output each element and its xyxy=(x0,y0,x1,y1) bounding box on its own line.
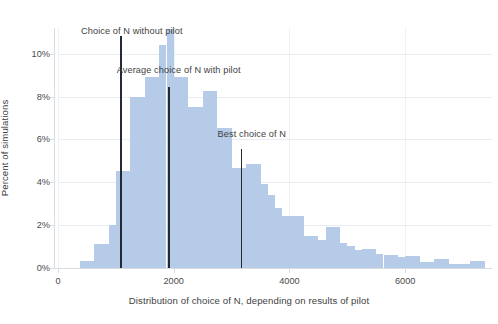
histogram-bar xyxy=(456,264,463,268)
histogram-bar xyxy=(174,77,181,268)
histogram-bar xyxy=(275,208,282,268)
x-tick-mark xyxy=(405,269,406,273)
gridline-vertical xyxy=(405,28,406,268)
histogram-bar xyxy=(87,261,94,269)
y-tick-label: 8% xyxy=(37,92,50,102)
histogram-bar xyxy=(398,257,405,268)
histogram-bar xyxy=(362,249,369,268)
histogram-bar xyxy=(412,256,419,268)
histogram-bar xyxy=(203,91,210,268)
histogram-bar xyxy=(326,227,333,268)
x-tick-label: 0 xyxy=(55,276,60,286)
histogram-bar xyxy=(253,164,260,268)
histogram-bar xyxy=(434,259,441,268)
histogram-bar xyxy=(463,264,470,268)
x-tick-label: 2000 xyxy=(163,276,183,286)
histogram-bar xyxy=(80,261,87,269)
marker-label-1: Choice of N without pilot xyxy=(81,26,183,36)
histogram-bar xyxy=(246,164,253,268)
histogram-bar xyxy=(123,171,130,269)
marker-line-3 xyxy=(241,149,243,268)
histogram-bar xyxy=(101,244,108,268)
histogram-bar xyxy=(478,261,485,269)
histogram-bar xyxy=(427,262,434,268)
histogram-bar xyxy=(152,77,159,268)
histogram-bar xyxy=(282,216,289,269)
histogram-bar xyxy=(340,243,347,268)
marker-label-2: Average choice of N with pilot xyxy=(117,65,241,75)
histogram-bar xyxy=(145,77,152,268)
y-tick-label: 6% xyxy=(37,134,50,144)
y-tick-label: 0% xyxy=(37,263,50,273)
histogram-bar xyxy=(138,97,145,268)
y-tick-label: 10% xyxy=(32,49,50,59)
histogram-bar xyxy=(217,128,224,268)
x-tick-mark xyxy=(174,269,175,273)
histogram-bar xyxy=(449,264,456,268)
histogram-bar xyxy=(94,244,101,268)
gridline-horizontal xyxy=(58,54,492,55)
x-axis-line xyxy=(54,268,492,269)
histogram-bar xyxy=(333,227,340,268)
marker-label-3: Best choice of N xyxy=(218,129,287,139)
y-axis-line xyxy=(54,28,55,269)
x-tick-mark xyxy=(289,269,290,273)
histogram-bar xyxy=(384,255,391,268)
histogram-bar xyxy=(355,250,362,268)
x-tick-mark xyxy=(58,269,59,273)
histogram-bar xyxy=(405,256,412,268)
histogram-bar xyxy=(195,107,202,268)
y-tick-label: 4% xyxy=(37,177,50,187)
histogram-bar xyxy=(224,128,231,268)
gridline-horizontal xyxy=(58,97,492,98)
x-tick-label: 6000 xyxy=(395,276,415,286)
histogram-bar xyxy=(297,216,304,269)
histogram-bar xyxy=(289,216,296,269)
histogram-bar xyxy=(391,255,398,268)
plot-area: Choice of N without pilotAverage choice … xyxy=(58,28,492,268)
histogram-chart: Percent of simulations 0%2%4%6%8%10% Cho… xyxy=(0,0,498,324)
y-tick-label: 2% xyxy=(37,220,50,230)
x-tick-label: 4000 xyxy=(279,276,299,286)
histogram-bar xyxy=(268,195,275,268)
x-axis-label: Distribution of choice of N, depending o… xyxy=(0,295,498,306)
histogram-bar xyxy=(420,262,427,268)
histogram-bar xyxy=(261,184,268,268)
histogram-bar xyxy=(369,249,376,268)
histogram-bar xyxy=(441,259,448,268)
histogram-bar xyxy=(311,236,318,268)
gridline-horizontal xyxy=(58,139,492,140)
histogram-bar xyxy=(210,91,217,268)
histogram-bar xyxy=(181,77,188,268)
histogram-bar xyxy=(130,97,137,268)
y-axis-ticks: 0%2%4%6%8%10% xyxy=(0,28,50,268)
histogram-bar xyxy=(318,240,325,268)
histogram-bar xyxy=(232,168,239,268)
histogram-bar xyxy=(304,236,311,268)
histogram-bar xyxy=(470,261,477,269)
marker-line-2 xyxy=(168,87,170,268)
gridline-vertical xyxy=(58,28,59,268)
histogram-bar xyxy=(188,107,195,268)
histogram-bar xyxy=(376,254,383,268)
histogram-bar xyxy=(347,246,354,269)
histogram-bar xyxy=(159,45,166,268)
histogram-bar xyxy=(109,225,116,268)
